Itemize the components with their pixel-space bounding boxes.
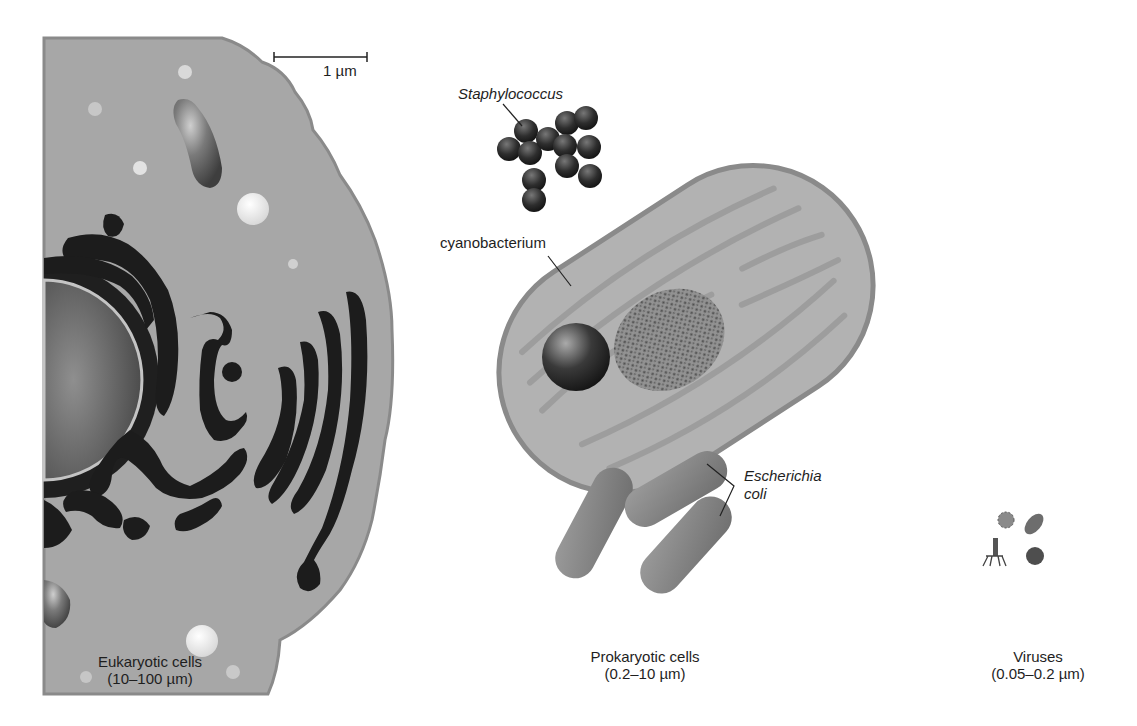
prokaryotic-cells-range: (0.2–10 µm) — [565, 665, 725, 682]
staphylococcus-cluster — [497, 106, 602, 212]
prokaryotic-cells-caption: Prokaryotic cells (0.2–10 µm) — [565, 648, 725, 682]
viruses-range: (0.05–0.2 µm) — [968, 665, 1108, 682]
eukaryotic-cells-caption: Eukaryotic cells (10–100 µm) — [70, 653, 230, 687]
scale-bar-label: 1 µm — [323, 62, 357, 79]
staphylococcus-label: Staphylococcus — [458, 85, 563, 102]
viruses-caption: Viruses (0.05–0.2 µm) — [968, 648, 1108, 682]
illustration-canvas — [0, 0, 1137, 726]
staphylococcus-leader-line — [503, 104, 522, 126]
eukaryotic-cell — [44, 38, 393, 694]
eukaryotic-cells-name: Eukaryotic cells — [70, 653, 230, 670]
virus-particles — [983, 510, 1047, 566]
cyanophycin-granule — [542, 323, 610, 391]
cyanobacterium-label: cyanobacterium — [440, 234, 546, 251]
viruses-name: Viruses — [968, 648, 1108, 665]
scale-bar — [274, 52, 367, 62]
eukaryotic-cells-range: (10–100 µm) — [70, 670, 230, 687]
prokaryotic-cells-name: Prokaryotic cells — [565, 648, 725, 665]
escherichia-coli-label-line2: coli — [744, 485, 767, 502]
cell-size-comparison-figure: 1 µm Staphylococcus cyanobacterium Esche… — [0, 0, 1137, 726]
escherichia-coli-label-line1: Escherichia — [744, 467, 822, 484]
